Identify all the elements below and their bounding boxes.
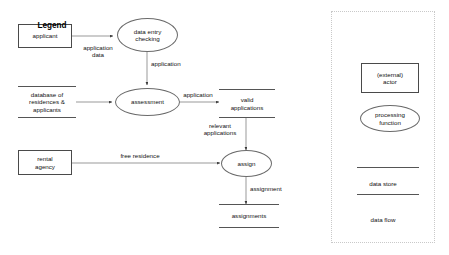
legend-data-store-top-line: [357, 167, 419, 168]
external-actor-applicant-label: applicant: [33, 32, 58, 39]
data-store-assignments[interactable]: assignments: [219, 204, 279, 228]
flow-label-relevant-applications: relevant applications: [196, 122, 244, 137]
external-actor-rental-agency-label: rental agency: [35, 155, 55, 169]
legend-title: Legend: [0, 21, 104, 30]
process-assessment-label: assessment: [131, 98, 164, 105]
external-actor-rental-agency[interactable]: rental agency: [18, 150, 72, 175]
data-store-database-residences-applicants-label: database of residences & applicants: [29, 91, 65, 113]
legend-item-processing-function: processing function: [360, 105, 420, 132]
flow-label-application-to-valid: application: [176, 91, 220, 98]
process-data-entry-checking[interactable]: data entry checking: [117, 18, 178, 52]
process-assessment[interactable]: assessment: [115, 88, 180, 116]
process-data-entry-checking-label: data entry checking: [134, 28, 162, 42]
legend-item-external-actor-label: (external) actor: [377, 71, 403, 86]
process-assign-label: assign: [238, 160, 256, 167]
flow-label-free-residence: free residence: [105, 152, 175, 159]
flow-label-assignment: assignment: [250, 185, 298, 192]
data-store-valid-applications[interactable]: valid applications: [219, 89, 275, 118]
legend-data-store-bottom-line: [357, 194, 419, 195]
legend-item-processing-function-label: processing function: [375, 111, 405, 126]
legend-item-data-store-label: data store: [331, 180, 435, 187]
data-store-assignments-label: assignments: [232, 212, 267, 219]
process-assign[interactable]: assign: [221, 150, 272, 177]
legend-item-data-flow-label: data flow: [331, 216, 435, 223]
data-store-database-residences-applicants[interactable]: database of residences & applicants: [18, 86, 76, 118]
legend-item-external-actor: (external) actor: [361, 63, 419, 93]
data-store-valid-applications-label: valid applications: [231, 96, 264, 111]
flow-label-application-to-assessment: application: [151, 60, 203, 67]
flow-label-application-data: application data: [72, 44, 124, 59]
